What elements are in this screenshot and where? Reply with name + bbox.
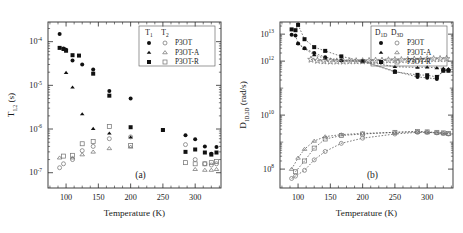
- x-tick-label: 200: [124, 193, 136, 202]
- data-point: [58, 166, 62, 170]
- data-point: [183, 133, 187, 137]
- data-point: [61, 162, 65, 166]
- fit-curve: [292, 35, 449, 79]
- data-point: [107, 137, 111, 141]
- plot-b: 100150200250300101310121010108Temperatur…: [232, 0, 463, 233]
- data-point: [107, 89, 111, 93]
- legend-label: P3OT: [407, 39, 425, 47]
- legend-header-col2: T2: [161, 28, 169, 38]
- data-point: [80, 153, 85, 156]
- data-point: [91, 139, 95, 143]
- x-tick-label: 300: [421, 193, 433, 202]
- data-point: [91, 150, 96, 153]
- panel-a: 10015020025030010-410-510-610-7Temperatu…: [0, 0, 231, 233]
- legend-marker-open-circle: [395, 41, 399, 45]
- data-point: [64, 49, 68, 53]
- data-point: [290, 33, 294, 37]
- fit-curve: [295, 131, 448, 171]
- figure-container: 10015020025030010-410-510-610-7Temperatu…: [0, 0, 463, 233]
- y-tick-label: 10-4: [29, 36, 42, 46]
- legend-marker-open-triangle: [395, 51, 400, 54]
- data-point: [129, 96, 133, 100]
- data-point: [91, 72, 95, 76]
- x-tick-label: 100: [292, 193, 304, 202]
- legend-label: P3OT: [175, 39, 193, 47]
- data-point: [214, 151, 218, 155]
- legend-marker-filled-circle: [379, 41, 383, 45]
- data-point: [415, 73, 419, 77]
- data-point: [77, 54, 81, 58]
- data-point: [303, 168, 307, 172]
- data-point: [193, 158, 197, 162]
- series-d3d-p3ot-r: [293, 129, 450, 173]
- legend-marker-filled-triangle: [379, 51, 384, 54]
- data-point: [393, 70, 397, 74]
- y-tick-label: 1012: [260, 55, 274, 65]
- x-tick-label: 150: [92, 193, 104, 202]
- data-point: [203, 151, 207, 155]
- data-point: [91, 144, 95, 148]
- legend-marker-filled-triangle: [147, 51, 152, 54]
- legend-marker-open-triangle: [163, 51, 168, 54]
- data-points: [289, 23, 450, 181]
- x-tick-label: 200: [356, 193, 368, 202]
- legend-label: P3OT-R: [407, 58, 431, 66]
- legend-label: P3OT-A: [175, 49, 200, 57]
- legend-header-col1: T1: [145, 28, 153, 38]
- data-point: [183, 150, 187, 154]
- data-point: [214, 167, 219, 170]
- axes-frame: [48, 22, 221, 188]
- data-point: [443, 55, 450, 61]
- data-point: [183, 143, 187, 147]
- legend-label: P3OT-A: [407, 49, 432, 57]
- plot-a: 10015020025030010-410-510-610-7Temperatu…: [0, 0, 231, 233]
- data-point: [193, 147, 197, 151]
- data-point: [339, 54, 343, 58]
- data-point: [446, 69, 450, 73]
- data-point: [290, 27, 294, 31]
- x-tick-label: 300: [189, 193, 201, 202]
- data-point: [107, 124, 111, 128]
- y-tick-label: 10-5: [29, 80, 42, 90]
- data-point: [91, 68, 95, 72]
- y-tick-label: 108: [263, 163, 274, 173]
- data-point: [209, 153, 213, 157]
- panel-b: 100150200250300101310121010108Temperatur…: [232, 0, 463, 233]
- y-tick-label: 1010: [260, 109, 274, 119]
- legend: T1T2P3OTP3OT-AP3OT-R: [139, 26, 215, 66]
- x-axis-title: Temperature (K): [336, 208, 397, 218]
- legend-marker-filled-square: [379, 60, 383, 64]
- legend-marker-filled-square: [147, 60, 151, 64]
- data-point: [193, 137, 197, 141]
- data-point: [293, 28, 297, 32]
- series-t2-p3ot-r: [61, 124, 218, 165]
- x-tick-label: 250: [157, 193, 169, 202]
- data-point: [193, 167, 198, 170]
- data-point: [296, 23, 300, 27]
- data-point: [323, 149, 327, 153]
- data-point: [129, 125, 133, 129]
- data-point: [303, 37, 307, 41]
- data-point: [64, 71, 69, 74]
- data-point: [107, 131, 112, 134]
- legend-marker-filled-circle: [147, 41, 151, 45]
- data-point: [203, 168, 208, 171]
- data-point: [323, 49, 327, 53]
- data-point: [70, 85, 75, 88]
- data-point: [80, 149, 84, 153]
- data-point: [107, 147, 112, 150]
- legend-marker-open-square: [163, 60, 167, 64]
- data-point: [312, 45, 316, 49]
- legend: D1DD3DP3OTP3OT-AP3OT-R: [371, 26, 447, 66]
- data-point: [435, 75, 439, 79]
- data-point: [71, 59, 75, 63]
- data-point: [107, 94, 111, 98]
- x-tick-label: 250: [389, 193, 401, 202]
- data-point: [58, 46, 62, 50]
- data-point: [209, 168, 214, 171]
- data-point: [80, 62, 84, 66]
- legend-label: P3OT-R: [175, 58, 199, 66]
- data-point: [91, 127, 96, 130]
- data-point: [61, 154, 65, 158]
- y-axis-title: T1,2 (s): [6, 93, 18, 117]
